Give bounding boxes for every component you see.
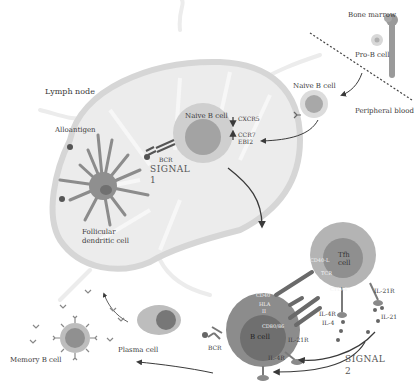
bcr-signal1-label: BCR (159, 157, 173, 164)
alloantigen-dot (59, 196, 65, 202)
signal1-label: SIGNAL (150, 165, 190, 175)
b-cell-label: B cell (250, 334, 270, 342)
naive-b-cell-outside-label: Naive B cell (293, 83, 336, 91)
lymph-node-label: Lymph node (45, 88, 95, 97)
bone-marrow-label: Bone marrow (348, 12, 396, 20)
pro-b-cell-label: Pro-B cell (355, 52, 390, 60)
il21r-tfh-label: IL-21R (374, 288, 395, 295)
cytokine-dots (336, 306, 384, 342)
alloantigen-label: Alloantigen (55, 127, 96, 135)
cd80-86-label: CD80/86 (262, 324, 284, 330)
plasma-cell-label: Plasma cell (118, 347, 158, 355)
ctla4-label: CTLA4 (330, 287, 347, 293)
tcr-label: TCR (321, 271, 332, 277)
il21r-b-label: IL-21R (288, 337, 309, 344)
fdc-label-line2: dendritic cell (82, 238, 129, 246)
memory-b-cell-label: Memory B cell (10, 357, 62, 365)
naive-b-cell-node-label: Naive B cell (185, 113, 228, 121)
il4r-tfh-label: IL-4R (319, 311, 336, 318)
hla-label-line2: II (262, 309, 266, 315)
plasma-cell (137, 305, 181, 335)
bcr-bottom-label: BCR (208, 345, 222, 352)
cd40l-label: CD40-L (310, 258, 329, 264)
tfh-label-line2: cell (338, 260, 351, 268)
cd40-label: CD40 (256, 293, 270, 299)
cxcr5-label: CXCR5 (238, 116, 260, 123)
il4-label: IL-4 (322, 320, 334, 327)
fdc-label-line1: Follicular (82, 229, 116, 237)
hla-label-line1: HLA (259, 302, 270, 308)
signal1-number: 1 (150, 176, 156, 186)
memory-b-cell (60, 323, 90, 353)
il21-label: IL-21 (381, 314, 397, 321)
signal2-label: SIGNAL (345, 355, 385, 365)
peripheral-blood-label: Peripheral blood (355, 108, 414, 116)
bone-icon (384, 14, 398, 75)
il4r-b-label: IL-4R (268, 355, 285, 362)
alloantigen-dot (67, 144, 73, 150)
ebi2-label: EBI2 (238, 139, 253, 146)
signal2-number: 2 (345, 367, 351, 377)
